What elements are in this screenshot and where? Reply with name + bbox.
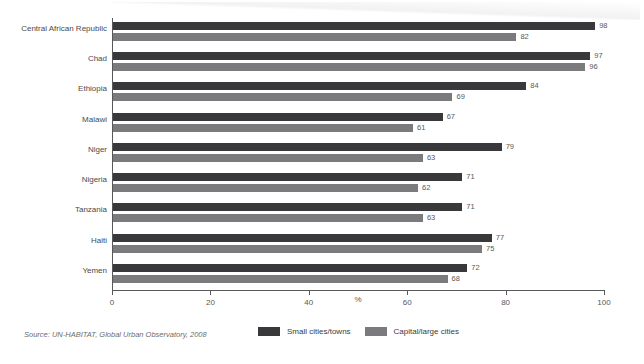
category-label: Niger [88,145,107,154]
bar: 67 [113,113,443,121]
x-axis-title: % [112,295,604,304]
category-label: Malawi [82,115,107,124]
bar-value-label: 97 [594,51,602,61]
bar-value-label: 68 [452,274,460,284]
category-label: Yemen [82,266,107,275]
category-label: Tanzania [75,205,107,214]
bar: 98 [113,22,595,30]
bar-value-label: 63 [427,153,435,163]
bar-value-label: 75 [486,244,494,254]
bar: 63 [113,214,423,222]
bar-value-label: 82 [520,32,528,42]
bar-value-label: 62 [422,183,430,193]
bar: 72 [113,264,467,272]
category-label: Chad [88,54,107,63]
source-note: Source: UN-HABITAT, Global Urban Observa… [24,330,207,339]
bar-value-label: 77 [496,233,504,243]
bar: 75 [113,245,482,253]
x-axis-line [112,290,604,291]
category-label: Haiti [91,236,107,245]
bar-value-label: 69 [456,92,464,102]
bar-value-label: 71 [466,172,474,182]
legend-label-small-cities: Small cities/towns [287,327,351,336]
bar-value-label: 84 [530,81,538,91]
category-label: Central African Republic [21,24,107,33]
bar-chart-figure: 020406080100 Central African Republic988… [0,0,644,364]
category-label: Nigeria [82,175,107,184]
bar-value-label: 96 [589,62,597,72]
bar: 71 [113,203,462,211]
bar-value-label: 63 [427,213,435,223]
bar: 82 [113,33,516,41]
legend-swatch-capital-cities [365,327,387,336]
legend-item-small-cities: Small cities/towns [258,327,351,336]
bar: 77 [113,234,492,242]
bar: 84 [113,82,526,90]
bar-value-label: 72 [471,263,479,273]
bar: 63 [113,154,423,162]
bar-value-label: 71 [466,202,474,212]
x-tick-100 [604,290,605,295]
legend-swatch-small-cities [258,327,280,336]
bar-value-label: 67 [447,112,455,122]
bar-value-label: 79 [506,142,514,152]
bar: 97 [113,52,590,60]
category-label: Ethiopia [78,84,107,93]
bar: 68 [113,275,448,283]
bar-value-label: 98 [599,21,607,31]
legend-label-capital-cities: Capital/large cities [394,327,459,336]
bar: 96 [113,63,585,71]
bar: 61 [113,124,413,132]
bar: 62 [113,184,418,192]
bar-value-label: 61 [417,123,425,133]
bar: 79 [113,143,502,151]
bar: 69 [113,93,452,101]
plot-area: 020406080100 Central African Republic988… [112,18,604,290]
bar: 71 [113,173,462,181]
legend-item-capital-cities: Capital/large cities [365,327,459,336]
chart-legend: Small cities/towns Capital/large cities [258,327,459,336]
